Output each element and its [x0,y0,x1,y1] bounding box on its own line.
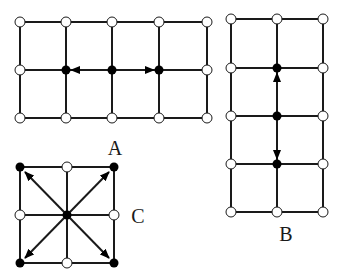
filled-node [108,66,117,75]
arrow-up-left-icon [25,172,67,215]
open-node [226,14,236,24]
open-node [154,113,164,123]
arrow-up-right-icon [67,172,109,215]
filled-node [273,64,282,73]
filled-node [155,66,164,75]
open-node [154,17,164,27]
open-node [202,113,212,123]
open-node [226,111,236,121]
open-node [15,65,25,75]
arrow-down-left-icon [25,215,67,258]
filled-node [62,66,71,75]
open-node [61,113,71,123]
open-node [272,14,282,24]
panel-a-grid [15,17,212,123]
open-node [226,159,236,169]
open-node [318,111,328,121]
open-node [226,207,236,217]
open-node [107,113,117,123]
filled-node [63,211,72,220]
open-node [318,14,328,24]
open-node [202,65,212,75]
filled-node [273,112,282,121]
panel-b-grid [226,14,328,217]
filled-node [16,163,25,172]
open-node [109,210,119,220]
open-node [318,207,328,217]
diagram-canvas: A B C [0,0,342,277]
open-node [272,207,282,217]
panel-a-label: A [108,137,123,159]
panel-b-label: B [279,223,292,245]
open-node [318,159,328,169]
open-node [15,210,25,220]
filled-node [273,160,282,169]
open-node [15,17,25,27]
open-node [318,63,328,73]
filled-node [110,259,119,268]
panel-c-label: C [131,205,144,227]
filled-node [110,163,119,172]
filled-node [16,259,25,268]
arrow-down-right-icon [67,215,109,258]
open-node [61,17,71,27]
open-node [15,113,25,123]
panel-c-grid [15,162,119,268]
open-node [62,162,72,172]
open-node [62,258,72,268]
open-node [226,63,236,73]
open-node [107,17,117,27]
open-node [202,17,212,27]
